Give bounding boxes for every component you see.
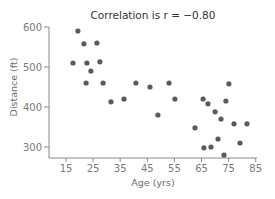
data-point bbox=[155, 112, 160, 117]
data-point bbox=[223, 98, 228, 103]
y-tick-label: 300 bbox=[23, 142, 42, 153]
data-point bbox=[244, 121, 249, 126]
data-point bbox=[84, 80, 89, 85]
data-point bbox=[133, 80, 138, 85]
data-point bbox=[84, 60, 89, 65]
data-point bbox=[81, 41, 86, 46]
x-tick-label: 35 bbox=[114, 163, 127, 174]
y-tick-label: 400 bbox=[23, 102, 42, 113]
data-point bbox=[237, 140, 242, 145]
data-point bbox=[94, 40, 99, 45]
y-tick-label: 600 bbox=[23, 22, 42, 33]
y-axis-label: Distance (ft) bbox=[8, 58, 19, 117]
x-tick-label: 85 bbox=[249, 163, 262, 174]
x-axis-label: Age (yrs) bbox=[131, 177, 174, 188]
data-point bbox=[231, 121, 236, 126]
x-tick-label: 45 bbox=[141, 163, 154, 174]
data-point bbox=[70, 60, 75, 65]
x-axis: 1525354555657585 bbox=[49, 158, 262, 174]
data-point bbox=[97, 59, 102, 64]
data-point bbox=[213, 109, 218, 114]
data-point bbox=[166, 80, 171, 85]
x-tick-label: 25 bbox=[87, 163, 100, 174]
data-point bbox=[88, 68, 93, 73]
y-tick-label: 500 bbox=[23, 62, 42, 73]
data-point bbox=[218, 116, 223, 121]
data-point bbox=[192, 125, 197, 130]
x-tick-label: 65 bbox=[195, 163, 208, 174]
x-tick-label: 75 bbox=[222, 163, 235, 174]
chart-title: Correlation is r = −0.80 bbox=[91, 9, 216, 21]
data-point bbox=[172, 96, 177, 101]
x-tick-label: 15 bbox=[60, 163, 73, 174]
y-axis: 300400500600 bbox=[23, 22, 49, 159]
data-point bbox=[208, 144, 213, 149]
data-point bbox=[147, 84, 152, 89]
data-point bbox=[108, 99, 113, 104]
data-point bbox=[221, 152, 226, 157]
x-tick-label: 55 bbox=[168, 163, 181, 174]
data-point bbox=[201, 96, 206, 101]
data-point bbox=[226, 81, 231, 86]
data-point bbox=[101, 80, 106, 85]
data-points bbox=[70, 28, 249, 157]
data-point bbox=[205, 101, 210, 106]
data-point bbox=[215, 136, 220, 141]
data-point bbox=[121, 96, 126, 101]
data-point bbox=[75, 28, 80, 33]
data-point bbox=[201, 145, 206, 150]
scatter-chart: Correlation is r = −0.80 300400500600 15… bbox=[0, 0, 275, 199]
